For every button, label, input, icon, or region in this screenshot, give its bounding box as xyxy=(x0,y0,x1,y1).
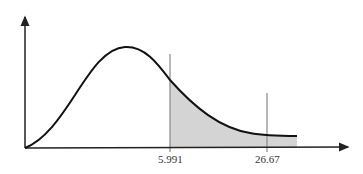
marker-label-2667: 26.67 xyxy=(255,153,280,165)
density-curve xyxy=(25,47,297,148)
marker-label-5991: 5.991 xyxy=(158,153,183,165)
shaded-tail-region xyxy=(170,80,297,148)
chi-square-diagram xyxy=(0,0,363,174)
x-axis xyxy=(25,147,348,148)
